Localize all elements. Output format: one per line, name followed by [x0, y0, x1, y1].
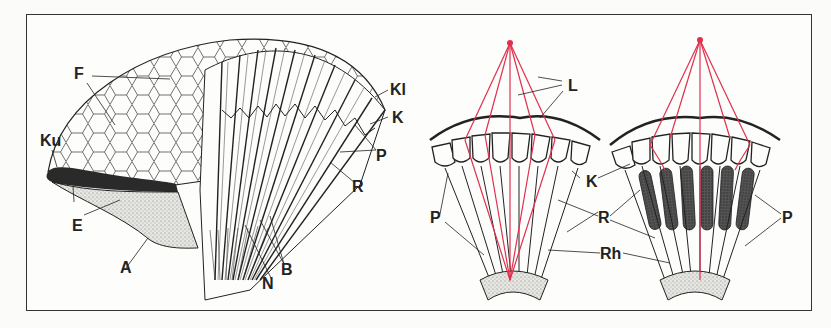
- label-crystalline-lens: Kl: [390, 82, 406, 98]
- label-retinula: R: [352, 179, 364, 195]
- label-rhabdom: Rh: [600, 246, 621, 262]
- label-pigment-left: P: [430, 210, 441, 226]
- label-B: B: [281, 262, 293, 278]
- label-cone: K: [392, 110, 404, 126]
- label-cuticle: Ku: [40, 133, 61, 149]
- label-nerve: N: [262, 276, 274, 292]
- label-light: L: [568, 78, 578, 94]
- label-A: A: [120, 260, 132, 276]
- label-cone-mid: K: [586, 174, 598, 190]
- label-facet: F: [74, 66, 84, 82]
- superposition-eye: [610, 37, 780, 300]
- cutaway-eye: [47, 39, 386, 300]
- label-epidermis: E: [72, 218, 83, 234]
- label-retinula-mid: R: [598, 210, 610, 226]
- label-pigment: P: [376, 148, 387, 164]
- label-pigment-right: P: [782, 210, 793, 226]
- compound-eye-diagram: [0, 0, 831, 328]
